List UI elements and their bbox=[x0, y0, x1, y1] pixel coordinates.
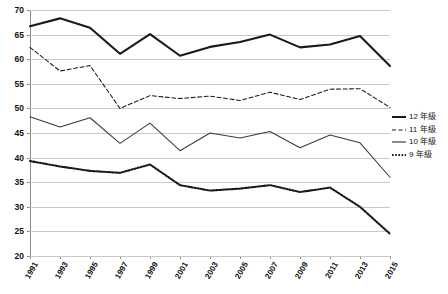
x-axis-tick-label: 1993 bbox=[54, 261, 70, 280]
legend-item-label: 12 年級 bbox=[409, 113, 436, 121]
legend-line-icon bbox=[392, 138, 406, 146]
legend-item-label: 9 年級 bbox=[409, 151, 432, 159]
legend-line-icon bbox=[392, 113, 406, 121]
series-layer bbox=[30, 10, 390, 256]
x-axis-tick-label: 1995 bbox=[84, 261, 100, 280]
y-axis-tick-label: 60 bbox=[0, 55, 24, 64]
y-axis-tick-label: 55 bbox=[0, 80, 24, 89]
x-axis-tick-label: 2015 bbox=[384, 261, 400, 280]
x-axis-tick-label: 2011 bbox=[324, 261, 340, 280]
y-axis-tick-label: 20 bbox=[0, 252, 24, 261]
x-axis-tick-label: 2001 bbox=[174, 261, 190, 280]
x-axis-tick-label: 1997 bbox=[114, 261, 130, 280]
plot-area bbox=[30, 10, 390, 256]
y-axis-tick-label: 45 bbox=[0, 129, 24, 138]
legend-item-label: 11 年級 bbox=[409, 126, 436, 134]
y-axis-tick-label: 40 bbox=[0, 153, 24, 162]
x-axis-tick-label: 2009 bbox=[294, 261, 310, 280]
series-line bbox=[30, 18, 390, 66]
legend-line-icon bbox=[392, 151, 406, 159]
chart-legend: 12 年級11 年級10 年級9 年級 bbox=[392, 113, 436, 159]
legend-item[interactable]: 12 年級 bbox=[392, 113, 436, 121]
x-axis-tick-label: 2003 bbox=[204, 261, 220, 280]
x-axis-tick-label: 1991 bbox=[24, 261, 40, 280]
y-axis-tick-label: 30 bbox=[0, 203, 24, 212]
x-axis-tick-label: 2013 bbox=[354, 261, 370, 280]
series-line bbox=[30, 161, 390, 234]
x-axis-tick-label: 2007 bbox=[264, 261, 280, 280]
legend-line-icon bbox=[392, 126, 406, 134]
y-axis-tick-label: 25 bbox=[0, 227, 24, 236]
x-axis-tick-mark bbox=[390, 256, 391, 259]
y-axis-tick-label: 70 bbox=[0, 6, 24, 15]
x-axis-tick-label: 1999 bbox=[144, 261, 160, 280]
line-chart: 2025303540455055606570 19911993199519971… bbox=[0, 0, 448, 294]
series-line bbox=[30, 47, 390, 108]
y-axis-tick-label: 50 bbox=[0, 104, 24, 113]
legend-item[interactable]: 11 年級 bbox=[392, 126, 436, 134]
series-line bbox=[30, 117, 390, 178]
x-axis-tick-label: 2005 bbox=[234, 261, 250, 280]
gridline bbox=[30, 256, 390, 257]
y-axis-tick-label: 65 bbox=[0, 30, 24, 39]
legend-item[interactable]: 10 年級 bbox=[392, 138, 436, 146]
y-axis-tick-label: 35 bbox=[0, 178, 24, 187]
legend-item-label: 10 年級 bbox=[409, 138, 436, 146]
legend-item[interactable]: 9 年級 bbox=[392, 151, 436, 159]
